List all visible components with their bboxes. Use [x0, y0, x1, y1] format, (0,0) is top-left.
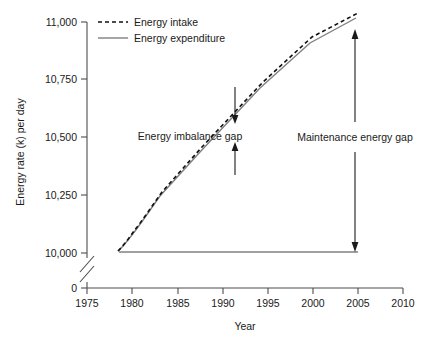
chart-legend: Energy intake Energy expenditure — [98, 16, 225, 44]
x-tick-label-1980: 1980 — [120, 297, 144, 309]
y-tick-label-10500: 10,500 — [45, 131, 77, 143]
legend-label-energy-expenditure: Energy expenditure — [134, 32, 225, 44]
y-axis-tick-labels: 11,000 10,750 10,500 10,250 10,000 0 — [45, 16, 77, 294]
x-axis-ticks — [87, 288, 403, 294]
x-tick-label-1975: 1975 — [75, 297, 99, 309]
x-axis-tick-labels: 1975 1980 1985 1990 1995 2000 2005 2010 — [75, 297, 415, 309]
y-axis-ticks — [81, 22, 87, 288]
energy-gap-line-chart: 11,000 10,750 10,500 10,250 10,000 0 197… — [0, 0, 435, 347]
legend-label-energy-intake: Energy intake — [134, 16, 198, 28]
x-tick-label-2010: 2010 — [391, 297, 415, 309]
y-tick-label-11000: 11,000 — [46, 16, 77, 28]
y-tick-label-10250: 10,250 — [45, 189, 77, 201]
annotation-energy-imbalance-gap: Energy imbalance gap — [138, 87, 243, 175]
x-tick-label-2000: 2000 — [301, 297, 325, 309]
y-axis-title: Energy rate (k) per day — [14, 98, 26, 206]
x-tick-label-1985: 1985 — [166, 297, 190, 309]
y-tick-label-10000: 10,000 — [45, 247, 77, 259]
imbalance-up-arrow-head — [232, 142, 239, 151]
maintenance-down-arrow-head — [352, 242, 359, 252]
imbalance-down-arrow-head — [232, 115, 239, 124]
annotation-maintenance-energy-gap: Maintenance energy gap — [297, 29, 413, 252]
x-axis-title: Year — [234, 320, 256, 332]
y-tick-label-0: 0 — [71, 282, 77, 294]
energy-imbalance-gap-label: Energy imbalance gap — [138, 130, 243, 142]
x-tick-label-1990: 1990 — [211, 297, 235, 309]
chart-figure: 11,000 10,750 10,500 10,250 10,000 0 197… — [0, 0, 435, 347]
y-tick-label-10750: 10,750 — [45, 73, 77, 85]
y-axis-break-icon — [80, 256, 94, 282]
maintenance-energy-gap-label: Maintenance energy gap — [297, 131, 413, 143]
maintenance-up-arrow-head — [352, 29, 359, 39]
x-tick-label-1995: 1995 — [256, 297, 280, 309]
x-tick-label-2005: 2005 — [346, 297, 370, 309]
